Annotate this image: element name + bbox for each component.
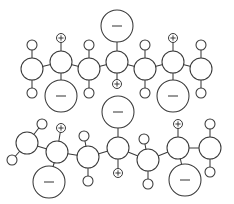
atom-substituent <box>196 88 206 98</box>
backbone-atom <box>106 51 128 73</box>
atom-terminal <box>190 58 212 80</box>
substituent-atom <box>205 167 215 177</box>
atom-substituent <box>140 88 150 98</box>
atom-substituent <box>205 167 215 177</box>
atom-substituent <box>37 119 47 129</box>
atom-substituent <box>27 40 37 50</box>
atom-substituent <box>205 119 215 129</box>
atom-backbone <box>77 146 99 168</box>
substituent-atom <box>196 88 206 98</box>
backbone-atom <box>107 137 129 159</box>
atom-charge-negative <box>157 80 189 112</box>
atom-substituent <box>7 155 17 165</box>
backbone-atom <box>77 146 99 168</box>
atom-charge-negative <box>169 164 201 196</box>
substituent-atom <box>140 88 150 98</box>
atom-substituent <box>84 40 94 50</box>
atom-charge-positive <box>57 124 66 133</box>
substituent-atom <box>79 131 89 141</box>
atom-backbone <box>134 58 156 80</box>
atom-substituent <box>139 134 149 144</box>
backbone-atom <box>21 58 43 80</box>
backbone-atom <box>50 51 72 73</box>
atoms-layer <box>7 10 221 198</box>
atom-charge-positive <box>114 169 123 178</box>
molecule-diagram <box>0 0 234 204</box>
atom-substituent <box>143 179 153 189</box>
substituent-atom <box>205 119 215 129</box>
backbone-atom <box>137 149 159 171</box>
atom-backbone <box>106 51 128 73</box>
backbone-atom <box>190 58 212 80</box>
substituent-atom <box>196 40 206 50</box>
substituent-atom <box>27 88 37 98</box>
backbone-atom <box>162 51 184 73</box>
atom-charge-positive <box>57 34 66 43</box>
atom-charge-negative <box>101 10 133 42</box>
atom-charge-negative <box>45 80 77 112</box>
substituent-atom <box>83 176 93 186</box>
substituent-atom <box>37 119 47 129</box>
atom-backbone <box>137 149 159 171</box>
atom-substituent <box>196 40 206 50</box>
substituent-atom <box>139 134 149 144</box>
atom-charge-positive <box>174 120 183 129</box>
atom-substituent <box>27 88 37 98</box>
backbone-atom <box>199 137 221 159</box>
atom-backbone <box>167 137 189 159</box>
backbone-atom <box>46 141 68 163</box>
atom-backbone <box>50 51 72 73</box>
atom-charge-positive <box>113 80 122 89</box>
atom-charge-negative <box>33 166 65 198</box>
backbone-atom <box>167 137 189 159</box>
atom-backbone <box>162 51 184 73</box>
diagram-canvas <box>0 0 234 204</box>
atom-backbone <box>78 58 100 80</box>
atom-terminal <box>16 132 38 154</box>
substituent-atom <box>143 179 153 189</box>
atom-backbone <box>46 141 68 163</box>
backbone-atom <box>78 58 100 80</box>
substituent-atom <box>27 40 37 50</box>
atom-charge-negative <box>102 96 134 128</box>
atom-terminal <box>199 137 221 159</box>
substituent-atom <box>84 88 94 98</box>
substituent-atom <box>140 40 150 50</box>
substituent-atom <box>7 155 17 165</box>
atom-substituent <box>140 40 150 50</box>
atom-substituent <box>83 176 93 186</box>
atom-charge-positive <box>169 34 178 43</box>
backbone-atom <box>134 58 156 80</box>
substituent-atom <box>84 40 94 50</box>
atom-substituent <box>79 131 89 141</box>
atom-backbone <box>107 137 129 159</box>
backbone-atom <box>16 132 38 154</box>
atom-substituent <box>84 88 94 98</box>
atom-terminal <box>21 58 43 80</box>
